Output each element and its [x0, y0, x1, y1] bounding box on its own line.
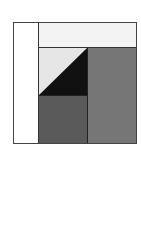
bottom-left-square: [39, 96, 88, 143]
quilt-block-diagram: [13, 22, 137, 144]
top-strip: [39, 23, 136, 48]
right-rectangle: [88, 48, 136, 143]
half-square-triangle-shape: [39, 48, 87, 95]
left-strip: [14, 23, 39, 143]
half-square-triangle: [39, 48, 88, 96]
